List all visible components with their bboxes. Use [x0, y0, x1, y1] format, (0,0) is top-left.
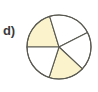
pie-diagram — [0, 0, 98, 92]
figure-container: d) — [0, 0, 98, 92]
